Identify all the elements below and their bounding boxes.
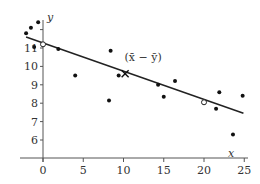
data-point — [214, 107, 218, 111]
data-point — [73, 74, 77, 78]
y-tick-label: 9 — [31, 79, 38, 92]
y-tick-label: 10 — [24, 60, 38, 73]
x-axis-label: x — [228, 147, 235, 160]
data-point — [24, 31, 28, 35]
data-point — [217, 90, 221, 94]
y-tick-label: 7 — [31, 116, 38, 129]
x-tick-label: 25 — [237, 164, 251, 177]
data-point — [56, 47, 60, 51]
scatter-chart: 051015202567891011 (x̄ − ȳ) y x — [0, 0, 260, 184]
x-tick-label: 5 — [80, 164, 87, 177]
data-point — [109, 49, 113, 53]
x-tick-label: 0 — [40, 164, 47, 177]
line-point-marker — [202, 100, 207, 105]
x-tick-label: 15 — [157, 164, 171, 177]
y-tick-label: 8 — [31, 97, 38, 110]
data-point — [29, 26, 33, 30]
data-point — [107, 98, 111, 102]
data-point — [36, 20, 40, 24]
x-tick-label: 20 — [197, 164, 211, 177]
data-points — [24, 20, 245, 136]
data-point — [156, 83, 160, 87]
x-tick-label: 10 — [117, 164, 131, 177]
data-point — [32, 45, 36, 49]
data-point — [231, 132, 235, 136]
tick-marks — [40, 30, 244, 162]
data-point — [173, 79, 177, 83]
data-point — [162, 95, 166, 99]
y-tick-label: 11 — [24, 42, 38, 55]
mean-annotation: (x̄ − ȳ) — [125, 51, 162, 64]
y-axis-label: y — [46, 11, 54, 24]
y-tick-label: 6 — [31, 134, 38, 147]
data-point — [241, 94, 245, 98]
data-point — [117, 74, 121, 78]
line-point-marker — [41, 42, 46, 47]
axes — [20, 20, 248, 162]
